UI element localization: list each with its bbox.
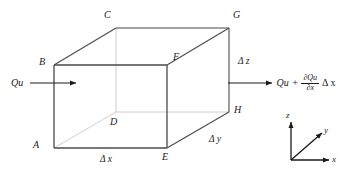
vertex-label-B: B	[39, 57, 45, 67]
fraction-denominator: ∂x	[304, 84, 316, 93]
axis-label-z: z	[286, 111, 290, 120]
vertex-label-C: C	[104, 10, 111, 20]
dimension-label-delta-x: Δ x	[100, 155, 112, 165]
hidden-edges	[54, 28, 229, 148]
dimension-label-delta-y: Δ y	[209, 135, 221, 145]
back-face-edges	[116, 28, 229, 112]
inflow-flux-label: Qu	[11, 78, 23, 88]
receding-edges	[54, 28, 229, 148]
vertex-label-F: F	[173, 52, 179, 62]
vertex-label-A: A	[33, 140, 39, 150]
outflow-plus-operator: +	[290, 78, 300, 88]
dimension-label-delta-z: Δ z	[238, 57, 249, 67]
vertex-label-H: H	[234, 105, 241, 115]
y-axis-arrow	[291, 133, 322, 160]
vertex-label-G: G	[233, 10, 240, 20]
outflow-flux-expression: Qu + ∂Qu ∂x Δ x	[275, 74, 337, 93]
figure-canvas: A B C D E F G H Δ x Δ y Δ z Qu Qu + ∂Qu …	[0, 0, 345, 176]
vertex-label-E: E	[162, 152, 168, 162]
outflow-base-term: Qu	[275, 78, 290, 88]
axis-label-x: x	[332, 155, 336, 164]
outflow-multiplier: Δ x	[321, 78, 337, 88]
front-face-edges	[54, 65, 167, 148]
outflow-derivative-fraction: ∂Qu ∂x	[301, 74, 319, 93]
axis-label-y: y	[324, 126, 328, 135]
vertex-label-D: D	[110, 117, 117, 127]
